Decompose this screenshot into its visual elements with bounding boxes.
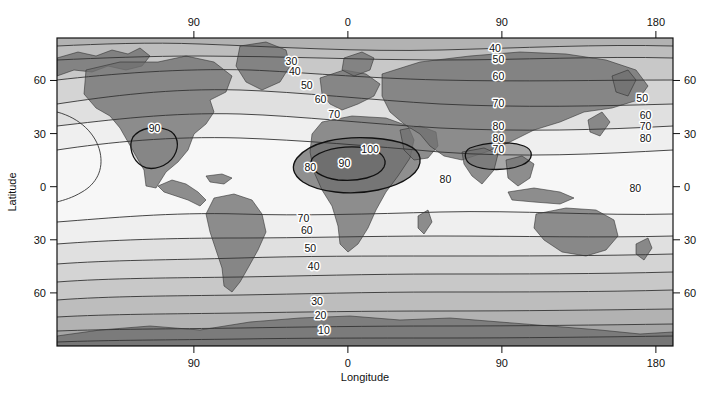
contour-label: 80 [630, 182, 642, 194]
axis-tick-label: 180 [647, 16, 665, 28]
axis-tick-label: 0 [40, 181, 46, 193]
contour-label: 50 [493, 53, 505, 65]
axis-tick-label: 0 [345, 16, 351, 28]
axis-tick-label: 30 [34, 128, 46, 140]
contour-label: 40 [289, 65, 301, 77]
axis-tick-label: 60 [34, 74, 46, 86]
axis-tick-label: 60 [684, 287, 696, 299]
axis-tick-label: 90 [496, 357, 508, 369]
axis-tick-label: 30 [34, 234, 46, 246]
contour-label: 60 [301, 224, 313, 236]
axis-tick-label: 0 [345, 357, 351, 369]
contour-label: 100 [361, 143, 379, 155]
contour-label: 60 [315, 93, 327, 105]
axis-tick-label: 30 [684, 128, 696, 140]
contour-label: 20 [315, 309, 327, 321]
contour-label: 40 [308, 260, 320, 272]
contour-label: 60 [493, 70, 505, 82]
axis-tick-label: 90 [188, 357, 200, 369]
contour-label: 70 [298, 212, 310, 224]
figure-container: 3030404050506060707090908080707060605050… [0, 0, 710, 393]
y-axis-title: Latitude [6, 172, 18, 211]
contour-label: 10 [318, 324, 330, 336]
contour-label: 90 [339, 157, 351, 169]
axis-tick-label: 0 [684, 181, 690, 193]
axis-tick-label: 90 [496, 16, 508, 28]
contour-label: 50 [301, 79, 313, 91]
contour-label: 80 [304, 161, 316, 173]
contour-label: 50 [304, 242, 316, 254]
contour-label: 80 [640, 132, 652, 144]
x-axis-title: Longitude [341, 371, 389, 383]
contour-label: 70 [493, 143, 505, 155]
contour-label: 50 [636, 92, 648, 104]
axis-tick-label: 60 [34, 287, 46, 299]
axis-tick-label: 180 [647, 357, 665, 369]
axis-tick-label: 60 [684, 74, 696, 86]
contour-label: 70 [640, 120, 652, 132]
axis-tick-label: 30 [684, 234, 696, 246]
axis-tick-label: 90 [188, 16, 200, 28]
contour-label: 70 [328, 108, 340, 120]
contour-label: 30 [311, 295, 323, 307]
contour-map-svg: 3030404050506060707090908080707060605050… [0, 0, 710, 393]
contour-label: 90 [149, 122, 161, 134]
contour-label: 70 [493, 97, 505, 109]
contour-label: 80 [493, 120, 505, 132]
contour-label: 80 [440, 173, 452, 185]
